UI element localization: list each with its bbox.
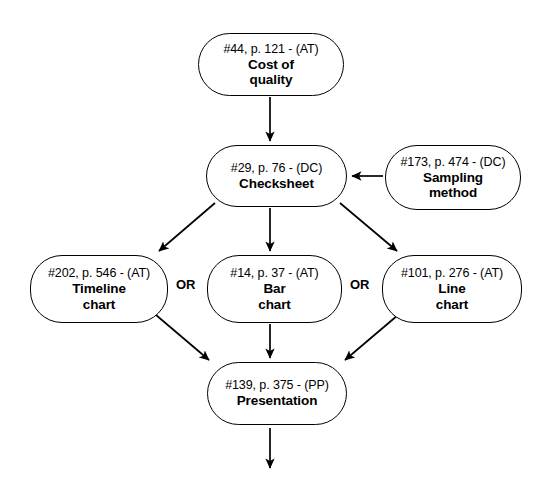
node-line-chart[interactable]: #101, p. 276 - (AT) Line chart [382, 255, 522, 323]
node-title: Timeline chart [72, 281, 126, 311]
node-title: Bar chart [258, 281, 291, 311]
node-bar-chart[interactable]: #14, p. 37 - (AT) Bar chart [207, 255, 342, 323]
or-label-left: OR [176, 277, 196, 292]
node-reference: #139, p. 375 - (PP) [225, 378, 329, 392]
node-reference: #14, p. 37 - (AT) [230, 266, 318, 280]
node-reference: #29, p. 76 - (DC) [231, 161, 322, 175]
node-cost-of-quality[interactable]: #44, p. 121 - (AT) Cost of quality [198, 33, 344, 96]
node-reference: #202, p. 546 - (AT) [48, 266, 150, 280]
node-reference: #173, p. 474 - (DC) [400, 155, 505, 169]
node-reference: #44, p. 121 - (AT) [223, 42, 318, 56]
node-checksheet[interactable]: #29, p. 76 - (DC) Checksheet [206, 145, 347, 207]
node-presentation[interactable]: #139, p. 375 - (PP) Presentation [207, 362, 347, 425]
edge-checksheet-to-timeline [159, 203, 215, 251]
node-sampling-method[interactable]: #173, p. 474 - (DC) Sampling method [385, 145, 521, 210]
flowchart-canvas: #44, p. 121 - (AT) Cost of quality #29, … [0, 0, 542, 489]
node-timeline-chart[interactable]: #202, p. 546 - (AT) Timeline chart [30, 255, 168, 323]
node-title: Cost of quality [248, 57, 294, 87]
or-label-right: OR [350, 277, 370, 292]
edge-checksheet-to-line [340, 203, 397, 251]
edge-line-to-presentation [345, 315, 398, 360]
node-title: Checksheet [239, 176, 314, 191]
edge-timeline-to-presentation [156, 315, 209, 360]
node-title: Line chart [436, 281, 469, 311]
node-reference: #101, p. 276 - (AT) [401, 266, 503, 280]
node-title: Sampling method [423, 170, 483, 200]
node-title: Presentation [237, 393, 318, 408]
